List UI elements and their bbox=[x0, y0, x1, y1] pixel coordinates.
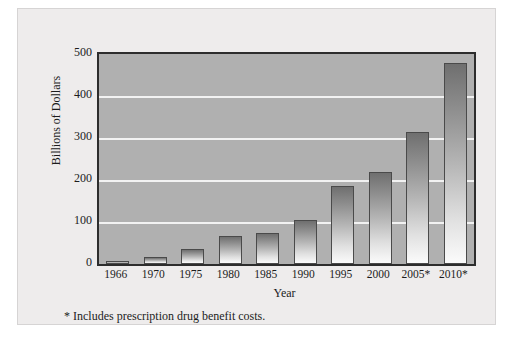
y-axis-tick-label: 0 bbox=[48, 256, 92, 268]
bar-slot bbox=[99, 54, 137, 264]
bar-slot bbox=[437, 54, 475, 264]
x-axis-tick-label: 2010* bbox=[435, 268, 473, 286]
x-axis-tick-label: 1975 bbox=[172, 268, 210, 286]
x-axis-tick-label: 1990 bbox=[285, 268, 323, 286]
chart-figure: Billions of Dollars 0100200300400500 196… bbox=[0, 0, 518, 344]
bar bbox=[294, 220, 317, 264]
bar-slot bbox=[212, 54, 250, 264]
bar bbox=[106, 261, 129, 264]
bar-slot bbox=[249, 54, 287, 264]
y-axis-tick-label: 300 bbox=[48, 130, 92, 142]
x-axis-tick-label: 2000 bbox=[360, 268, 398, 286]
figure-frame: Billions of Dollars 0100200300400500 196… bbox=[17, 8, 496, 325]
chart-footnote: * Includes prescription drug benefit cos… bbox=[64, 309, 265, 324]
x-axis-tick-label: 1970 bbox=[135, 268, 173, 286]
bar-series bbox=[99, 54, 474, 264]
bar bbox=[444, 63, 467, 264]
bar-slot bbox=[174, 54, 212, 264]
x-axis-tick-label: 1995 bbox=[322, 268, 360, 286]
x-axis-tick-label: 1985 bbox=[247, 268, 285, 286]
y-axis-tick-label: 200 bbox=[48, 172, 92, 184]
y-axis-tick-labels: 0100200300400500 bbox=[40, 52, 92, 262]
bar-slot bbox=[137, 54, 175, 264]
y-axis-tick-label: 400 bbox=[48, 88, 92, 100]
x-axis-tick-label: 1966 bbox=[97, 268, 135, 286]
bar-slot bbox=[287, 54, 325, 264]
bar bbox=[219, 236, 242, 264]
x-axis-tick-label: 2005* bbox=[397, 268, 435, 286]
bar bbox=[144, 257, 167, 264]
bar bbox=[331, 186, 354, 264]
x-axis-tick-label: 1980 bbox=[210, 268, 248, 286]
bar-slot bbox=[362, 54, 400, 264]
bar bbox=[256, 233, 279, 264]
x-axis-tick-labels: 196619701975198019851990199520002005*201… bbox=[97, 268, 472, 286]
bar bbox=[406, 132, 429, 264]
y-axis-tick-label: 100 bbox=[48, 214, 92, 226]
bar-slot bbox=[324, 54, 362, 264]
x-axis-title: Year bbox=[97, 286, 472, 301]
bar bbox=[181, 249, 204, 264]
bar-slot bbox=[399, 54, 437, 264]
y-axis-tick-label: 500 bbox=[48, 46, 92, 58]
bar bbox=[369, 172, 392, 264]
plot-area bbox=[97, 52, 476, 266]
